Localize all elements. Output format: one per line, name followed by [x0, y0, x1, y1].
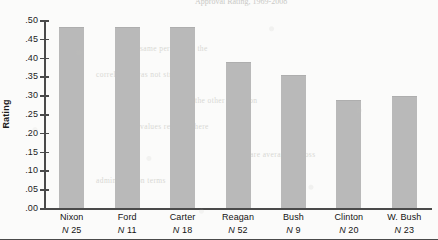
bar-bush [281, 75, 306, 208]
category-sample-size: N 18 [152, 224, 214, 236]
tick-label: .20 [25, 128, 38, 138]
tick-mark [40, 76, 49, 78]
category-label-group: NixonN 25 [41, 211, 103, 236]
tick-label: .30 [25, 90, 38, 100]
tick-mark [40, 133, 49, 135]
bar-reagan [226, 62, 251, 208]
tick-mark [40, 152, 49, 154]
bar-clinton [336, 100, 361, 208]
category-label-group: FordN 11 [96, 211, 158, 236]
category-name: W. Bush [373, 211, 435, 223]
tick-label: .00 [25, 203, 38, 213]
bar-w-bush [392, 96, 417, 208]
tick-mark [40, 95, 49, 97]
chart-title: Approval Rating, 1969-2008 [195, 0, 287, 6]
category-name: Carter [152, 211, 214, 223]
plot-area: Rating .50.45.40.35.30.25.20.15.10.05.00 [44, 20, 432, 208]
category-sample-size: N 23 [373, 224, 435, 236]
category-name: Bush [262, 211, 324, 223]
x-axis-category-labels: NixonN 25FordN 11CarterN 18ReaganN 52Bus… [44, 209, 432, 240]
bar-ford [115, 27, 140, 208]
y-axis-title: Rating [1, 99, 11, 128]
category-name: Nixon [41, 211, 103, 223]
category-sample-size: N 9 [262, 224, 324, 236]
tick-label: .15 [25, 147, 38, 157]
category-name: Clinton [318, 211, 380, 223]
category-label-group: W. BushN 23 [373, 211, 435, 236]
tick-mark [40, 58, 49, 60]
tick-label: .40 [25, 53, 38, 63]
tick-label: .05 [25, 184, 38, 194]
category-name: Reagan [207, 211, 269, 223]
category-sample-size: N 25 [41, 224, 103, 236]
category-label-group: ReaganN 52 [207, 211, 269, 236]
category-label-group: ClintonN 20 [318, 211, 380, 236]
category-sample-size: N 11 [96, 224, 158, 236]
category-sample-size: N 20 [318, 224, 380, 236]
tick-label: .10 [25, 165, 38, 175]
tick-mark [40, 189, 49, 191]
category-sample-size: N 52 [207, 224, 269, 236]
bar-carter [170, 27, 195, 208]
tick-mark [40, 114, 49, 116]
tick-label: .25 [25, 109, 38, 119]
category-label-group: BushN 9 [262, 211, 324, 236]
bar-nixon [59, 27, 84, 208]
tick-label: .50 [25, 15, 38, 25]
tick-mark [40, 20, 49, 22]
tick-label: .45 [25, 34, 38, 44]
tick-label: .35 [25, 71, 38, 81]
tick-mark [40, 39, 49, 41]
category-name: Ford [96, 211, 158, 223]
tick-mark [40, 170, 49, 172]
category-label-group: CarterN 18 [152, 211, 214, 236]
